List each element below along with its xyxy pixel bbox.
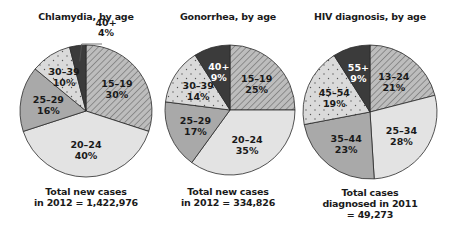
chart-hiv: HIV diagnosis, by age 13–2421%25–3428%35… bbox=[295, 0, 445, 229]
svg-text:9%: 9% bbox=[211, 72, 228, 83]
total-cases-caption: Total cases diagnosed in 2011 = 49,273 bbox=[295, 187, 445, 220]
svg-text:25–29: 25–29 bbox=[180, 115, 211, 126]
svg-text:40%: 40% bbox=[75, 150, 98, 161]
svg-text:30–39: 30–39 bbox=[183, 80, 214, 91]
caption-line: Total cases bbox=[295, 187, 445, 198]
chart-gonorrhea: Gonorrhea, by age 15–1925%20–2435%25–291… bbox=[153, 0, 303, 229]
svg-text:25%: 25% bbox=[245, 84, 268, 95]
caption-line: diagnosed in 2011 bbox=[295, 198, 445, 209]
svg-text:13–24: 13–24 bbox=[378, 71, 410, 82]
caption-line: Total new cases bbox=[153, 186, 303, 197]
svg-text:25–34: 25–34 bbox=[386, 125, 418, 136]
caption-line: = 49,273 bbox=[295, 209, 445, 220]
svg-text:15–19: 15–19 bbox=[241, 73, 272, 84]
caption-line: in 2012 = 1,422,976 bbox=[11, 197, 161, 208]
svg-text:9%: 9% bbox=[350, 73, 367, 84]
caption-line: Total new cases bbox=[11, 186, 161, 197]
svg-text:23%: 23% bbox=[335, 144, 358, 155]
svg-text:4%: 4% bbox=[98, 27, 115, 38]
svg-text:16%: 16% bbox=[37, 105, 60, 116]
svg-text:28%: 28% bbox=[390, 136, 413, 147]
svg-text:25–29: 25–29 bbox=[33, 94, 64, 105]
svg-text:40+: 40+ bbox=[208, 61, 229, 72]
svg-text:14%: 14% bbox=[187, 91, 210, 102]
total-cases-caption: Total new cases in 2012 = 334,826 bbox=[153, 186, 303, 208]
svg-text:45–54: 45–54 bbox=[319, 87, 351, 98]
chart-chlamydia: Chlamydia, by age 15–1930%20–2440%25–291… bbox=[11, 0, 161, 229]
svg-text:17%: 17% bbox=[184, 126, 207, 137]
svg-text:55+: 55+ bbox=[348, 62, 369, 73]
svg-text:30–39: 30–39 bbox=[48, 66, 79, 77]
total-cases-caption: Total new cases in 2012 = 1,422,976 bbox=[11, 186, 161, 208]
svg-text:35%: 35% bbox=[236, 145, 259, 156]
svg-text:21%: 21% bbox=[382, 82, 405, 93]
svg-text:19%: 19% bbox=[323, 98, 346, 109]
svg-text:30%: 30% bbox=[106, 89, 129, 100]
svg-text:20–24: 20–24 bbox=[70, 139, 102, 150]
svg-text:15–19: 15–19 bbox=[101, 78, 132, 89]
caption-line: in 2012 = 334,826 bbox=[153, 197, 303, 208]
svg-text:20–24: 20–24 bbox=[232, 134, 264, 145]
svg-text:10%: 10% bbox=[53, 77, 76, 88]
svg-text:35–44: 35–44 bbox=[331, 133, 363, 144]
